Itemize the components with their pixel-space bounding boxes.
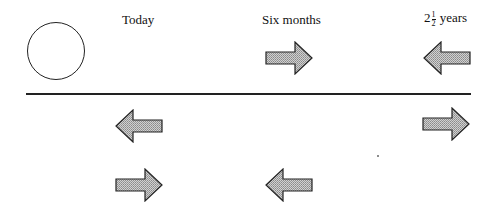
label-two-and-half-years: 212 years [424,10,467,28]
right-arrow-icon [115,168,163,202]
left-arrow-icon [423,41,471,75]
fraction-half: 12 [432,11,436,28]
years-unit: years [440,10,467,25]
left-arrow-icon [265,168,313,202]
label-six-months: Six months [262,12,321,28]
left-arrow-icon [115,109,163,143]
circle-shape [27,22,85,80]
divider-line [26,93,471,95]
timeline-diagram: Today Six months 212 years [0,0,493,215]
right-arrow-icon [422,107,470,141]
stray-dot [377,155,379,157]
label-today: Today [122,12,154,28]
years-whole: 2 [424,10,431,25]
right-arrow-icon [265,41,313,75]
